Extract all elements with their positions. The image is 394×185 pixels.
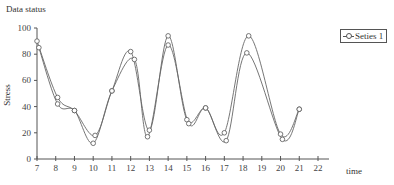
y-tick-label: 40 — [22, 102, 32, 112]
data-point-marker — [132, 57, 137, 62]
data-point-marker — [186, 121, 191, 126]
x-tick-label: 16 — [201, 163, 211, 173]
data-point-marker — [37, 45, 42, 50]
x-tick-label: 17 — [220, 163, 230, 173]
legend-label: Seties 1 — [355, 31, 383, 41]
y-tick-label: 20 — [22, 128, 32, 138]
series-line — [37, 36, 299, 137]
x-axis-label: time — [346, 166, 362, 176]
data-point-marker — [145, 134, 150, 139]
data-point-marker — [280, 137, 285, 142]
axes: 0204060801007891011121314151617181920212… — [18, 23, 330, 173]
data-point-marker — [110, 89, 115, 94]
data-point-marker — [166, 43, 171, 48]
data-point-marker — [224, 138, 229, 143]
line-chart: 0204060801007891011121314151617181920212… — [0, 0, 394, 185]
x-tick-label: 11 — [108, 163, 117, 173]
x-tick-label: 12 — [126, 163, 135, 173]
legend-marker-icon — [343, 32, 354, 40]
data-point-marker — [91, 141, 96, 146]
x-tick-label: 21 — [295, 163, 304, 173]
data-point-marker — [55, 102, 60, 107]
data-point-marker — [35, 39, 40, 44]
data-point-marker — [55, 95, 60, 100]
y-tick-label: 80 — [22, 49, 32, 59]
x-tick-label: 22 — [314, 163, 323, 173]
series-curves — [37, 36, 299, 144]
x-tick-label: 10 — [89, 163, 99, 173]
y-axis-label: Stress — [2, 84, 12, 106]
x-tick-label: 13 — [145, 163, 155, 173]
x-tick-label: 15 — [182, 163, 192, 173]
data-point-marker — [72, 108, 77, 113]
data-point-marker — [166, 34, 171, 39]
x-tick-label: 20 — [276, 163, 286, 173]
y-tick-label: 100 — [18, 23, 32, 33]
y-tick-label: 60 — [22, 75, 32, 85]
data-point-marker — [147, 128, 152, 133]
data-point-marker — [245, 51, 250, 56]
series-markers — [35, 34, 302, 146]
x-tick-label: 8 — [53, 163, 58, 173]
x-tick-label: 9 — [72, 163, 77, 173]
data-point-marker — [203, 106, 208, 111]
x-tick-label: 19 — [257, 163, 267, 173]
data-point-marker — [297, 107, 302, 112]
x-tick-label: 7 — [35, 163, 40, 173]
data-point-marker — [278, 132, 283, 137]
data-point-marker — [246, 34, 251, 39]
legend: Seties 1 — [340, 29, 387, 43]
x-tick-label: 14 — [164, 163, 174, 173]
y-tick-label: 0 — [27, 154, 32, 164]
x-tick-label: 18 — [239, 163, 249, 173]
data-point-marker — [128, 49, 133, 54]
data-point-marker — [222, 131, 227, 136]
data-point-marker — [93, 133, 98, 138]
series-line — [39, 45, 299, 144]
